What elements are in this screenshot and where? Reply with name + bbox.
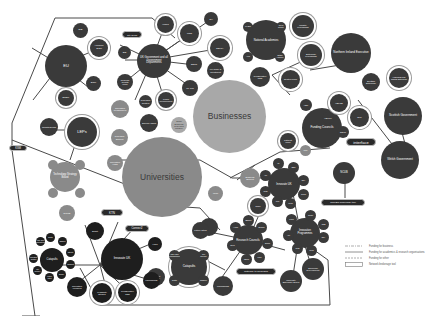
stfc-node[interactable]: STFC bbox=[227, 240, 238, 251]
economic-dev-node[interactable] bbox=[75, 160, 85, 170]
innovate-uk-cluster-node[interactable]: Innovate UK bbox=[268, 168, 300, 200]
iuk-sub-2[interactable]: SBRI bbox=[288, 162, 299, 173]
city-deals-tag[interactable]: City Deals bbox=[122, 31, 142, 38]
ktn-tag[interactable]: KTN bbox=[101, 209, 123, 216]
feasibility-node[interactable]: Feasibility Studies bbox=[92, 283, 112, 303]
rc-sub-5[interactable]: AIM bbox=[283, 230, 294, 241]
catalyst-node[interactable]: Catalyst Fund bbox=[280, 133, 296, 149]
dh-node[interactable]: DH bbox=[204, 12, 218, 26]
iuk-sub-7[interactable]: ISIS bbox=[272, 196, 283, 207]
dstl-node[interactable]: DSTL bbox=[250, 198, 266, 214]
iuk-sub-5[interactable]: AIM bbox=[260, 170, 271, 181]
enterprise-investment-node[interactable]: Economic Development bbox=[302, 258, 324, 280]
innovation-node[interactable]: Innovation Hubs bbox=[107, 155, 123, 171]
research-node-low[interactable]: Launchpads bbox=[213, 276, 233, 296]
future-cities-node[interactable]: Future Cities bbox=[192, 222, 209, 239]
hmrc-node[interactable]: HMRC bbox=[157, 16, 174, 33]
collaborative-node[interactable]: Collaborative R&D bbox=[118, 283, 137, 302]
defra-node[interactable]: DEFRA bbox=[210, 38, 230, 58]
growth-deals-node[interactable]: Growth Deals bbox=[40, 118, 58, 136]
uk-trade-node[interactable]: UK Trade & Investment bbox=[207, 62, 224, 79]
uk-government-node[interactable]: UK Government and all Government Departm… bbox=[137, 44, 171, 78]
cn-sub-3[interactable]: Offshore bbox=[58, 237, 67, 246]
esif-node[interactable]: ESIF bbox=[86, 76, 101, 91]
innovation-vouchers-node[interactable]: Innovation Vouchers bbox=[67, 277, 87, 297]
cn-sub-6[interactable]: Energy bbox=[57, 270, 66, 279]
gateway-to-research-tag[interactable]: Gateway to Research bbox=[236, 268, 276, 275]
catapult-sub-4[interactable]: Offshore bbox=[198, 275, 209, 286]
cn-sub-1[interactable]: High Value Manufacturing bbox=[36, 237, 45, 246]
rc-sub-1[interactable]: KTPs bbox=[286, 214, 297, 225]
dcms-node[interactable]: DCMS bbox=[59, 205, 75, 221]
iuk-sub-6[interactable]: SME bbox=[260, 186, 271, 197]
scottish-enterprise-node[interactable]: Scottish Enterprise bbox=[362, 73, 380, 91]
small-business-node[interactable]: Small Business Research Initiative bbox=[171, 117, 187, 133]
innovate-uk-node[interactable]: Innovate UK bbox=[101, 238, 143, 280]
ahrc-node[interactable]: AHRC bbox=[230, 222, 241, 233]
highlands-node[interactable]: Highlands and Islands Enterprise bbox=[389, 68, 409, 88]
decc-node[interactable]: DECC bbox=[186, 56, 202, 72]
connect-tag[interactable]: Connect2 bbox=[125, 225, 149, 232]
welsh-government-node[interactable]: Welsh Government bbox=[381, 141, 419, 179]
leps-node[interactable]: LEPs bbox=[67, 117, 97, 147]
rai-node[interactable]: RAEng bbox=[243, 22, 253, 32]
mod-node[interactable]: MOD bbox=[180, 24, 199, 43]
uk-ipo-node[interactable]: UK IPO bbox=[182, 80, 198, 96]
iuk-sub-8[interactable]: ICCS bbox=[285, 198, 296, 209]
catapult-sub-1[interactable]: High Value Manufacturing bbox=[169, 250, 180, 261]
eib-node[interactable]: EIB bbox=[73, 23, 88, 38]
research-centres-node[interactable]: Research Centres bbox=[139, 95, 152, 108]
university-enterprise-node[interactable] bbox=[48, 188, 58, 198]
catapult-sub-2[interactable]: Cell Therapy bbox=[198, 250, 209, 261]
iuk-sub-1[interactable]: PL bbox=[273, 158, 284, 169]
businesses-node[interactable]: Businesses bbox=[193, 80, 266, 153]
erdf-node[interactable]: ERDF bbox=[58, 90, 74, 106]
iuk-sub-4[interactable]: Group bbox=[298, 189, 309, 200]
cn-sub-4[interactable]: Satellite bbox=[66, 248, 75, 257]
national-bodies-node[interactable]: Science Parks bbox=[140, 114, 158, 132]
royal-society-node[interactable]: Royal Society bbox=[276, 22, 286, 32]
mrc-node[interactable]: MRC bbox=[254, 252, 265, 263]
horizon-node[interactable]: Horizon 2020 bbox=[90, 39, 108, 57]
enterprise-fellowships-node[interactable]: Enterprise Fellowships bbox=[300, 44, 322, 66]
hefcw-node[interactable]: HEFCW bbox=[322, 112, 334, 124]
delni-node[interactable]: DELNI bbox=[337, 126, 349, 138]
ktp-node[interactable]: KTPs bbox=[148, 237, 162, 251]
ukri-node[interactable]: UKRI bbox=[208, 186, 223, 201]
esrc-node[interactable]: ESRC bbox=[262, 238, 273, 249]
nerc-node[interactable]: NERC bbox=[241, 254, 252, 265]
growth-service-node[interactable]: Innovation Programmes bbox=[111, 100, 129, 118]
rc-sub-2[interactable]: Smart bbox=[305, 210, 316, 221]
rc-sub-4[interactable]: ESA bbox=[318, 232, 329, 243]
academies-programme-node[interactable]: Collaborative R&D bbox=[250, 67, 270, 87]
research-support-node[interactable]: Research Support bbox=[111, 129, 128, 146]
heif-node[interactable]: HEIF bbox=[300, 99, 312, 111]
bbsrc-node[interactable]: BBSRC bbox=[243, 215, 254, 226]
cn-sub-8[interactable]: Cell Therapy bbox=[33, 266, 42, 275]
business-support-node[interactable] bbox=[48, 160, 58, 170]
interface-tag[interactable]: interface bbox=[346, 138, 376, 146]
catapult-network-node[interactable]: Catapults bbox=[40, 248, 64, 272]
cn-sub-7[interactable]: Future Cities bbox=[45, 273, 54, 282]
bis-node[interactable]: BIS bbox=[118, 46, 131, 59]
innovation-hubs-node[interactable] bbox=[75, 188, 85, 198]
eu-node[interactable]: EU bbox=[45, 45, 87, 87]
cn-sub-9[interactable]: Innovation Centres bbox=[29, 254, 38, 263]
ctu-node[interactable]: CTU bbox=[300, 145, 311, 156]
ams-node[interactable]: British Academy bbox=[275, 52, 285, 62]
rc-sub-6[interactable]: SME bbox=[292, 243, 303, 254]
hefce-node[interactable]: HEFCE bbox=[330, 94, 348, 112]
smart-node[interactable]: Smart bbox=[86, 222, 104, 240]
iuk-sub-3[interactable]: ESA bbox=[298, 175, 309, 186]
cn-sub-2[interactable]: Digital bbox=[46, 233, 55, 242]
cn-sub-5[interactable]: Transport bbox=[66, 260, 75, 269]
rc-sub-7[interactable]: ICCS bbox=[306, 245, 317, 256]
public-procurement-node[interactable]: Public Procurement bbox=[158, 92, 174, 108]
universities-node[interactable]: Universities bbox=[122, 137, 202, 217]
sfc-node[interactable]: SFC bbox=[350, 108, 369, 127]
catapult-sub-3[interactable]: Digital bbox=[169, 275, 180, 286]
ncub-brokerage-tag[interactable]: NCUB's brokerage tool bbox=[321, 199, 365, 206]
rc-sub-3[interactable]: NSB bbox=[318, 219, 329, 230]
newton-fund-node[interactable]: Newton Fund bbox=[281, 70, 300, 89]
british-academy-node[interactable]: AMS bbox=[243, 52, 253, 62]
